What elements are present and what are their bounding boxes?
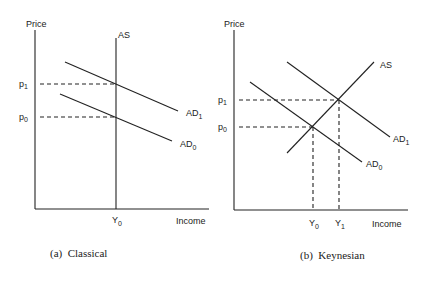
y-axis-label: Price (224, 19, 245, 29)
panel-classical (35, 30, 209, 209)
ad0-label: AD0 (180, 139, 197, 151)
y0-tick-label: Y0 (112, 215, 122, 227)
ad1-label: AD1 (186, 108, 203, 120)
ad0-curve (250, 82, 362, 162)
ad0-label: AD0 (366, 159, 383, 171)
p1-tick-label: p1 (19, 79, 28, 90)
y0-tick-label: Y0 (309, 218, 319, 230)
panel-keynesian (234, 30, 408, 210)
y1-tick-label: Y1 (335, 218, 345, 230)
p0-tick-label: p0 (19, 112, 28, 123)
panel-caption: (a) Classical (50, 247, 107, 260)
p0-tick-label: p0 (218, 122, 227, 133)
p1-tick-label: p1 (218, 95, 227, 106)
x-axis-label: Income (372, 219, 402, 229)
ad1-label: AD1 (393, 134, 410, 146)
y-axis-label: Price (26, 19, 47, 29)
as-label: AS (380, 60, 392, 70)
panel-caption: (b) Keynesian (300, 249, 365, 262)
ad-as-diagram: Price Income AS AD1 AD0 p1 p0 Y0 (a) Cla… (0, 0, 428, 282)
x-axis-label: Income (176, 216, 206, 226)
as-label: AS (118, 30, 130, 40)
